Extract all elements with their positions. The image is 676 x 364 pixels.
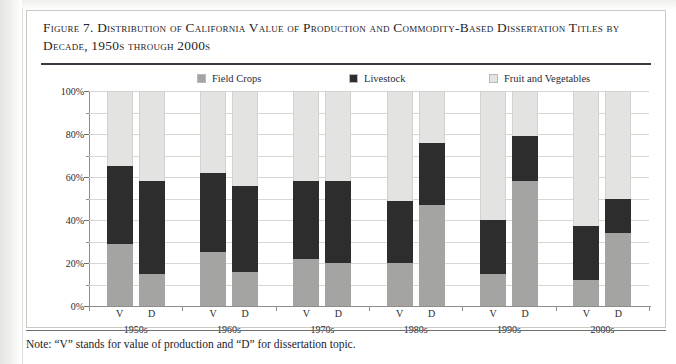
legend-item-field-crops[interactable]: Field Crops (197, 73, 261, 84)
bar-2000s-D[interactable] (605, 91, 631, 306)
legend-item-livestock[interactable]: Livestock (349, 73, 405, 84)
segment-livestock (512, 136, 538, 181)
x-axis-sublabel-V: V (573, 308, 599, 319)
x-axis-sublabel-V: V (387, 308, 413, 319)
figure-note: Note: “V” stands for value of production… (26, 338, 666, 350)
y-axis-tick-label: 0% (71, 301, 84, 312)
title-divider (41, 63, 651, 65)
segment-livestock (387, 201, 413, 263)
x-axis-sublabel-D: D (325, 308, 351, 319)
segment-fruit-and-vegetables (605, 91, 631, 199)
segment-field-crops (573, 280, 599, 306)
segment-livestock (605, 199, 631, 233)
segment-field-crops (512, 181, 538, 306)
gridline-minor (89, 285, 649, 286)
figure-title: Figure 7. Distribution of California Val… (43, 19, 649, 55)
gridline (89, 134, 649, 135)
bar-1960s-V[interactable] (200, 91, 226, 306)
bar-1980s-D[interactable] (419, 91, 445, 306)
legend-item-fruit-and-vegetables[interactable]: Fruit and Vegetables (489, 73, 590, 84)
segment-livestock (419, 143, 445, 205)
segment-livestock (139, 181, 165, 273)
y-axis-tick-minor (86, 113, 89, 114)
segment-fruit-and-vegetables (387, 91, 413, 201)
bar-1970s-D[interactable] (325, 91, 351, 306)
x-axis-sublabel-V: V (293, 308, 319, 319)
x-axis-sublabel-D: D (232, 308, 258, 319)
x-axis-sublabel-V: V (480, 308, 506, 319)
gridline-minor (89, 156, 649, 157)
gridline-minor (89, 242, 649, 243)
legend-swatch-icon (349, 74, 358, 83)
y-axis-tick-label: 40% (66, 215, 84, 226)
gridline (89, 263, 649, 264)
x-axis-line (89, 306, 651, 307)
bar-1950s-V[interactable] (107, 91, 133, 306)
segment-fruit-and-vegetables (480, 91, 506, 220)
segment-fruit-and-vegetables (200, 91, 226, 173)
segment-fruit-and-vegetables (419, 91, 445, 143)
y-axis-tick-minor (86, 242, 89, 243)
y-axis-tick-minor (86, 199, 89, 200)
segment-field-crops (419, 205, 445, 306)
x-axis-sublabel-V: V (200, 308, 226, 319)
segment-livestock (325, 181, 351, 263)
segment-field-crops (200, 252, 226, 306)
plot-wrapper: 0%20%40%60%80%100% VDVDVDVDVDVD1950s1960… (27, 91, 667, 329)
bar-1990s-D[interactable] (512, 91, 538, 306)
segment-fruit-and-vegetables (293, 91, 319, 181)
figure-container: Figure 7. Distribution of California Val… (26, 10, 666, 328)
scan-page-border (22, 8, 23, 364)
x-axis-sublabel-D: D (605, 308, 631, 319)
gridline (89, 91, 649, 92)
bar-2000s-V[interactable] (573, 91, 599, 306)
x-axis-sublabel-V: V (107, 308, 133, 319)
y-axis-tick (84, 91, 89, 92)
gridline (89, 177, 649, 178)
y-axis-tick-label: 20% (66, 258, 84, 269)
x-axis-sublabel-D: D (419, 308, 445, 319)
legend-label: Fruit and Vegetables (504, 73, 590, 84)
gridline (89, 220, 649, 221)
y-axis: 0%20%40%60%80%100% (27, 91, 89, 329)
y-axis-tick (84, 177, 89, 178)
segment-fruit-and-vegetables (232, 91, 258, 186)
y-axis-tick-minor (86, 285, 89, 286)
segment-field-crops (387, 263, 413, 306)
segment-livestock (573, 226, 599, 280)
legend-swatch-icon (197, 74, 206, 83)
bar-1960s-D[interactable] (232, 91, 258, 306)
segment-field-crops (293, 259, 319, 306)
segment-livestock (480, 220, 506, 274)
scan-edge-left (0, 0, 22, 364)
segment-livestock (293, 181, 319, 258)
x-axis-sublabel-D: D (512, 308, 538, 319)
segment-field-crops (139, 274, 165, 306)
scanned-page: Figure 7. Distribution of California Val… (0, 0, 676, 364)
bar-1990s-V[interactable] (480, 91, 506, 306)
y-axis-tick-label: 60% (66, 172, 84, 183)
segment-livestock (200, 173, 226, 253)
bar-1980s-V[interactable] (387, 91, 413, 306)
segment-fruit-and-vegetables (107, 91, 133, 166)
segment-field-crops (605, 233, 631, 306)
y-axis-tick-minor (86, 156, 89, 157)
legend-label: Field Crops (212, 73, 261, 84)
note-divider (26, 330, 666, 331)
segment-livestock (232, 186, 258, 272)
segment-field-crops (232, 272, 258, 306)
bar-1950s-D[interactable] (139, 91, 165, 306)
segment-fruit-and-vegetables (573, 91, 599, 226)
y-axis-tick (84, 263, 89, 264)
bar-1970s-V[interactable] (293, 91, 319, 306)
segment-fruit-and-vegetables (139, 91, 165, 181)
x-axis-sublabel-D: D (139, 308, 165, 319)
chart-legend: Field CropsLivestockFruit and Vegetables (177, 73, 607, 89)
segment-livestock (107, 166, 133, 243)
gridline-minor (89, 113, 649, 114)
legend-label: Livestock (364, 73, 405, 84)
legend-swatch-icon (489, 74, 498, 83)
y-axis-tick-label: 80% (66, 129, 84, 140)
segment-fruit-and-vegetables (512, 91, 538, 136)
segment-fruit-and-vegetables (325, 91, 351, 181)
